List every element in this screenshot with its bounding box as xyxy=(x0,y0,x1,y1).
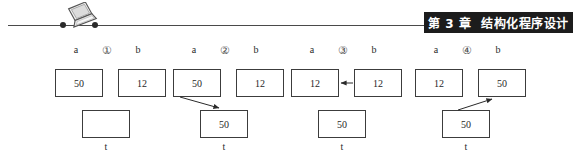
label-t: t xyxy=(318,141,366,152)
label-b: b xyxy=(128,44,148,55)
label-a: a xyxy=(302,44,322,55)
page-root: 第 3 章 结构化程序设计 a ① b 50 12 t a ② b 50 12 … xyxy=(0,0,573,161)
box-t-value xyxy=(82,110,130,138)
trace-step-group: a ① b 50 12 t xyxy=(52,44,180,156)
trace-step-group: a ③ b 12 12 50 t xyxy=(288,44,416,156)
arrow-t-to-b xyxy=(412,44,540,156)
step-number: ③ xyxy=(333,44,353,57)
chapter-title: 结构化程序设计 xyxy=(481,14,569,31)
box-b-value: 12 xyxy=(118,69,166,97)
box-a-value: 50 xyxy=(55,69,103,97)
label-t: t xyxy=(442,141,490,152)
step-number: ④ xyxy=(457,44,477,57)
label-a: a xyxy=(184,44,204,55)
box-t-value: 50 xyxy=(442,110,490,138)
label-t: t xyxy=(200,141,248,152)
arrow-layer xyxy=(52,44,180,156)
box-a-value: 12 xyxy=(415,69,463,97)
arrow-b-to-a xyxy=(288,44,416,156)
laptop-icon xyxy=(62,2,98,30)
box-b-value: 12 xyxy=(236,69,284,97)
box-t-value: 50 xyxy=(200,110,248,138)
box-a-value: 50 xyxy=(173,69,221,97)
box-b-value: 50 xyxy=(478,69,526,97)
box-t-value: 50 xyxy=(318,110,366,138)
chapter-number: 第 3 章 xyxy=(428,14,471,31)
label-b: b xyxy=(364,44,384,55)
step-number: ② xyxy=(215,44,235,57)
trace-step-group: a ④ b 12 50 50 t xyxy=(412,44,540,156)
trace-step-group: a ② b 50 12 50 t xyxy=(170,44,298,156)
chapter-banner: 第 3 章 结构化程序设计 xyxy=(424,12,573,33)
label-b: b xyxy=(246,44,266,55)
box-b-value: 12 xyxy=(354,69,402,97)
step-number: ① xyxy=(97,44,117,57)
label-a: a xyxy=(66,44,86,55)
arrow-a-to-t xyxy=(170,44,298,156)
label-t: t xyxy=(82,141,130,152)
label-b: b xyxy=(488,44,508,55)
label-a: a xyxy=(426,44,446,55)
box-a-value: 12 xyxy=(291,69,339,97)
